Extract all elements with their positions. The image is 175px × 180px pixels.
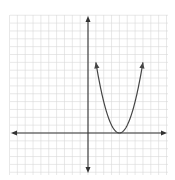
y-axis-up-arrow-icon	[86, 16, 91, 22]
curve-left-arrow-icon	[94, 62, 99, 68]
grid-lines	[10, 15, 169, 175]
x-axis-right-arrow-icon	[161, 131, 167, 136]
axes	[11, 16, 167, 173]
coordinate-plane	[0, 0, 175, 180]
x-axis-left-arrow-icon	[11, 131, 17, 136]
curve-right-arrow-icon	[139, 62, 144, 68]
